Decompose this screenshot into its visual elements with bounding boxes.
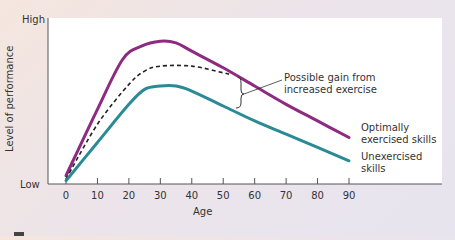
x-tick-label: 30	[154, 190, 167, 201]
optimal-legend-label: Optimally exercised skills	[361, 122, 436, 146]
x-tick-label: 90	[343, 190, 356, 201]
unexercised-label-line1: Unexercised	[361, 151, 422, 163]
gain-annotation-line2: increased exercise	[284, 84, 377, 96]
x-tick-label: 40	[185, 190, 198, 201]
y-axis-title: Level of performance	[4, 46, 15, 152]
optimal-label-line1: Optimally	[361, 122, 436, 134]
x-tick-label: 60	[248, 190, 261, 201]
gain-annotation-line1: Possible gain from	[284, 72, 377, 84]
optimal-label-line2: exercised skills	[361, 134, 436, 146]
gain-annotation: Possible gain from increased exercise	[284, 72, 377, 96]
x-axis-title: Age	[193, 206, 212, 218]
x-axis-ticks	[66, 178, 349, 184]
x-tick-label: 70	[280, 190, 293, 201]
x-tick-label: 80	[311, 190, 324, 201]
x-tick-label: 10	[91, 190, 104, 201]
x-tick-label: 20	[123, 190, 136, 201]
x-tick-label: 50	[217, 190, 230, 201]
x-tick-label: 0	[63, 190, 69, 201]
unexercised-label-line2: skills	[361, 163, 422, 175]
unexercised-legend-label: Unexercised skills	[361, 151, 422, 175]
gain-bracket	[236, 77, 282, 108]
y-high-label: High	[22, 14, 45, 26]
optimal-series-line	[66, 41, 349, 176]
y-low-label: Low	[20, 179, 40, 191]
corner-marker	[14, 232, 24, 236]
unexercised-series-line	[66, 86, 349, 181]
